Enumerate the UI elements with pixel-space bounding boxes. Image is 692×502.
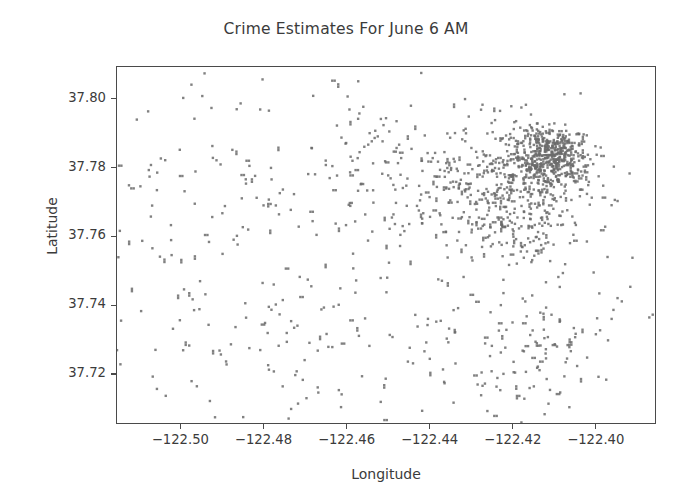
x-axis-label: Longitude [116,466,656,482]
x-tick-label: −122.48 [223,432,303,447]
matplotlib-figure: Crime Estimates For June 6 AM Latitude 3… [0,0,692,502]
x-tick-label: −122.46 [307,432,387,447]
x-tick-label: −122.42 [473,432,553,447]
x-tick-mark [180,424,181,429]
x-tick-mark [595,424,596,429]
y-tick-label: 37.78 [44,159,106,174]
y-tick-label: 37.80 [44,90,106,105]
x-tick-mark [263,424,264,429]
x-tick-mark [346,424,347,429]
chart-title: Crime Estimates For June 6 AM [0,20,692,38]
y-tick-label: 37.74 [44,296,106,311]
x-tick-label: −122.50 [140,432,220,447]
x-tick-label: −122.44 [390,432,470,447]
x-tick-mark [429,424,430,429]
plot-area[interactable] [116,66,656,424]
x-tick-label: −122.40 [556,432,636,447]
scatter-points-canvas [117,67,656,424]
y-tick-label: 37.76 [44,227,106,242]
y-tick-label: 37.72 [44,365,106,380]
x-tick-mark [512,424,513,429]
y-axis-label: Latitude [44,166,60,286]
